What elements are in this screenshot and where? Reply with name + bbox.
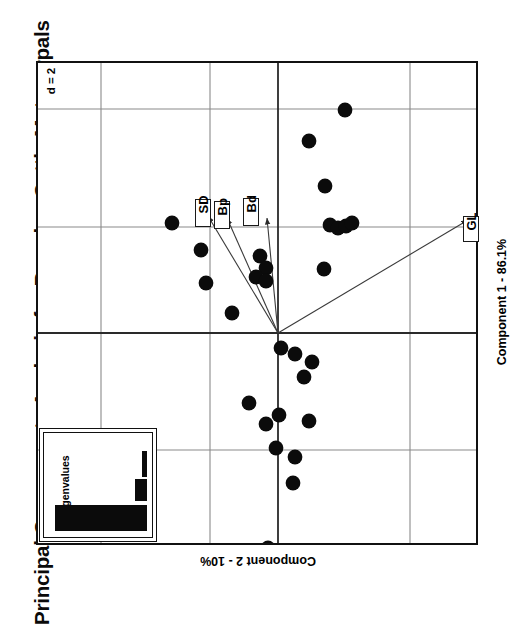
variable-label-bp-text: Bp — [216, 202, 229, 216]
data-point — [261, 541, 276, 543]
variable-label-gl: GL — [463, 216, 479, 242]
loading-vector-GL — [278, 220, 468, 333]
data-point — [288, 450, 303, 465]
variable-label-sd: SD — [195, 199, 211, 227]
data-point — [286, 476, 301, 491]
data-point — [199, 276, 214, 291]
data-point — [345, 216, 360, 231]
data-point — [305, 355, 320, 370]
data-point — [302, 414, 317, 429]
data-point — [318, 179, 333, 194]
data-point — [302, 134, 317, 149]
data-point — [269, 441, 284, 456]
eigenvalues-plot-area: Eigenvalues — [43, 432, 153, 538]
data-point — [297, 370, 312, 385]
eigenvalue-bar-2 — [135, 479, 147, 501]
data-point — [242, 396, 257, 411]
x-axis-label: Component 1 - 86.1% — [493, 192, 511, 412]
data-point — [194, 243, 209, 258]
data-point — [259, 274, 274, 289]
data-point — [165, 216, 180, 231]
data-point — [288, 347, 303, 362]
data-point — [272, 408, 287, 423]
data-point — [317, 262, 332, 277]
eigenvalue-bar-3 — [142, 451, 147, 477]
data-point — [225, 306, 240, 321]
y-axis-label: Component 2 - 10% — [178, 552, 338, 570]
variable-label-sd-text: SD — [197, 200, 210, 214]
data-point — [274, 341, 289, 356]
eigenvalue-bar-1 — [55, 505, 147, 531]
variable-label-bd: Bd — [243, 198, 259, 226]
variable-label-gl-text: GL — [465, 217, 478, 231]
eigenvalues-inset: Eigenvalues — [39, 428, 157, 542]
data-points — [165, 103, 360, 543]
dimension-label: d = 2 — [43, 58, 59, 104]
data-point — [259, 417, 274, 432]
variable-label-bd-text: Bd — [245, 199, 258, 213]
data-point — [338, 103, 353, 118]
variable-label-bp: Bp — [214, 201, 230, 229]
